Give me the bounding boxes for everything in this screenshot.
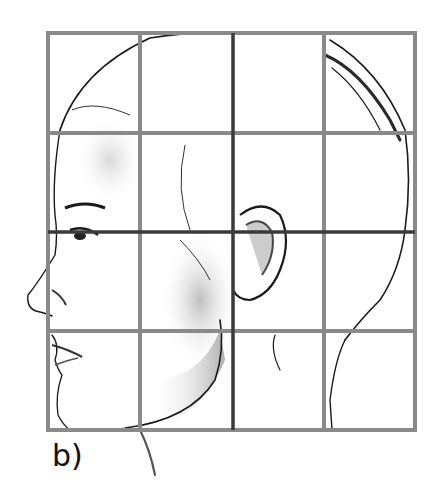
head-grid-figure: b) (0, 0, 440, 496)
facial-features (52, 204, 105, 365)
center-grid-lines (48, 33, 415, 430)
head-sketch (0, 0, 440, 496)
ear (233, 207, 286, 301)
panel-label: b) (52, 438, 83, 473)
